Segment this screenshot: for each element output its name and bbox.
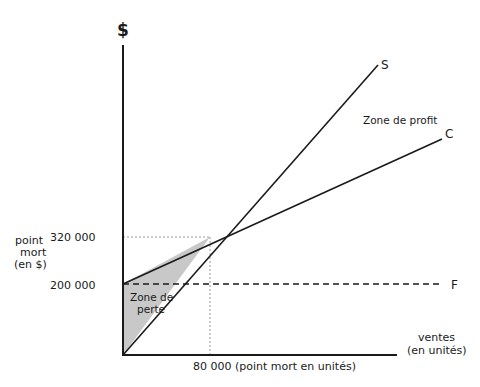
point-mort-label-line3: (en $) xyxy=(14,258,47,271)
series-label-s: S xyxy=(381,58,389,72)
break-even-chart: $ S C F Zone de profit Zone de perte 320… xyxy=(0,0,480,387)
loss-zone-label-line1: Zone de xyxy=(130,291,173,303)
x-axis-label-line2: (en unités) xyxy=(407,344,467,357)
series-label-f: F xyxy=(451,278,458,292)
x-axis-label-line1: ventes xyxy=(418,331,455,344)
y-axis-label: $ xyxy=(117,20,129,40)
total-cost-line-c xyxy=(123,139,442,284)
profit-zone-label: Zone de profit xyxy=(363,114,437,126)
x-tick-80000: 80 000 (point mort en unités) xyxy=(193,360,356,373)
y-tick-200000: 200 000 xyxy=(50,279,96,292)
y-tick-320000: 320 000 xyxy=(50,231,96,244)
loss-zone-label-line2: perte xyxy=(137,303,165,315)
series-label-c: C xyxy=(445,127,453,141)
